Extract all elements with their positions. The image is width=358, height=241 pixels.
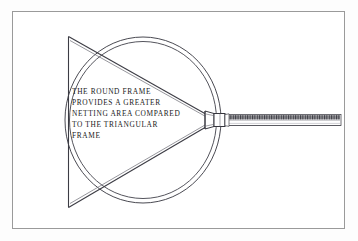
caption-line-2: PROVIDES A GREATER [72, 98, 212, 109]
diagram-caption: THE ROUND FRAME PROVIDES A GREATER NETTI… [72, 87, 212, 141]
handle-collar [214, 114, 225, 127]
caption-line-4: TO THE TRIANGULAR [72, 120, 212, 131]
handle-shaft [225, 114, 341, 127]
handle-taper-stub [225, 114, 229, 127]
caption-line-1: THE ROUND FRAME [72, 87, 212, 98]
caption-line-5: FRAME [72, 131, 212, 142]
figure-root: THE ROUND FRAME PROVIDES A GREATER NETTI… [0, 0, 358, 241]
handle-collar-body [214, 114, 225, 127]
caption-line-3: NETTING AREA COMPARED [72, 109, 212, 120]
handle-grip-shade [226, 115, 340, 119]
